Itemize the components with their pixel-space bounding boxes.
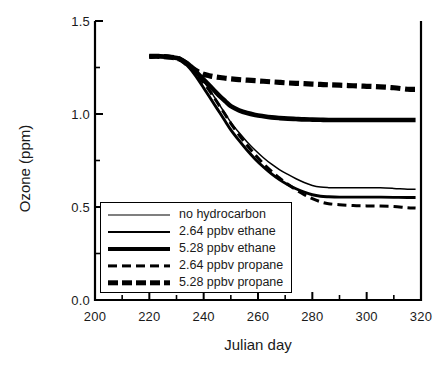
x-tick-label: 260 [247,309,269,324]
x-tick-label: 220 [138,309,160,324]
x-tick-label: 320 [410,309,432,324]
x-tick-label: 280 [301,309,323,324]
x-tick-label: 200 [84,309,106,324]
legend-item: 5.28 ppbv propane [101,274,291,291]
x-tick-label: 240 [193,309,215,324]
x-axis-title: Julian day [95,336,421,353]
y-tick-label: 0.0 [52,293,90,308]
legend-label: 5.28 ppbv propane [179,276,283,289]
ozone-line-chart: 0.00.51.01.5 200220240260280300320 Ozone… [0,0,448,368]
legend-item: 5.28 ppbv ethane [101,240,291,257]
legend-label: 5.28 ppbv ethane [179,242,276,255]
plot-canvas [0,0,448,368]
y-tick-label: 1.5 [52,14,90,29]
y-axis-title: Ozone (ppm) [16,99,33,239]
legend-line-swatch [108,261,170,271]
legend-label: 2.64 ppbv ethane [179,225,276,238]
legend-item: 2.64 ppbv propane [101,257,291,274]
legend-line-swatch [108,244,170,254]
y-tick-label: 1.0 [52,107,90,122]
legend-line-swatch [108,227,170,237]
legend-label: 2.64 ppbv propane [179,259,283,272]
legend-item: 2.64 ppbv ethane [101,223,291,240]
legend-line-swatch [108,210,170,220]
legend: no hydrocarbon2.64 ppbv ethane5.28 ppbv … [100,202,292,293]
legend-item: no hydrocarbon [101,206,291,223]
legend-line-swatch [108,278,170,288]
series-line-0 [149,56,415,189]
series-line-1 [149,56,415,197]
x-tick-label: 300 [356,309,378,324]
series-line-4 [149,56,415,89]
series-line-3 [149,56,415,208]
y-tick-label: 0.5 [52,200,90,215]
data-series-group [149,56,415,208]
legend-label: no hydrocarbon [179,208,266,221]
